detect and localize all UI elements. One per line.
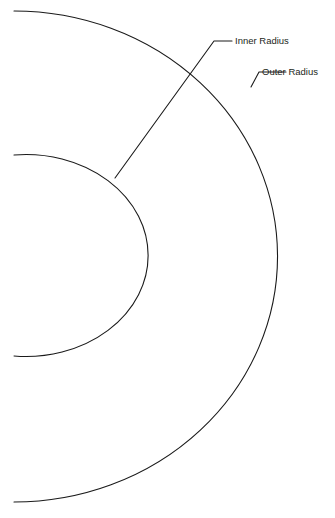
diagram-background: [0, 0, 335, 518]
diagram-canvas: Inner Radius Outer Radius: [0, 0, 335, 518]
outer-radius-label: Outer Radius: [262, 66, 318, 77]
concentric-radius-diagram: Inner Radius Outer Radius: [0, 0, 335, 518]
inner-radius-label: Inner Radius: [235, 35, 289, 46]
